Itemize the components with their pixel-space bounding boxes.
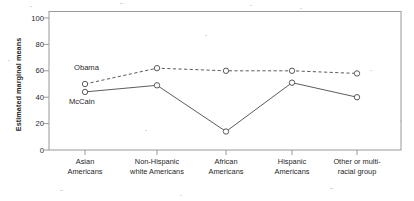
x-tick-line: racial group <box>310 167 404 177</box>
x-tick-line: Other or multi- <box>310 157 404 167</box>
x-tick-label-other-or-multi-racial-group: Other or multi- racial group <box>310 157 404 176</box>
x-axis-tick-labels: Asian Americans Non-Hispanic white Ameri… <box>0 0 414 201</box>
chart-figure: Estimated marginal means 100 80 60 40 20… <box>0 0 414 201</box>
